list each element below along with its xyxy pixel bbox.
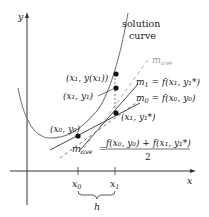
curve-label-line2: curve	[129, 30, 156, 41]
step-brace: h	[78, 191, 115, 212]
tick-label-x0: x0	[72, 178, 82, 191]
label-x1-y1star: (x₁, y₁*)	[121, 112, 156, 122]
formula-numerator: f(x₀, y₀) + f(x₁, y₁*)	[105, 138, 191, 148]
euler-diagram: y x x0 x1 h solution curve (x₁, y(x₁)) (…	[0, 0, 209, 217]
point-x0-y0	[75, 133, 80, 138]
formula-denominator: 2	[145, 152, 151, 162]
point-x1-yx1	[113, 71, 118, 76]
tick-label-x1: x1	[110, 178, 120, 191]
curve-label-line1: solution	[122, 18, 160, 29]
label-x1-yx1: (x₁, y(x₁))	[66, 73, 109, 83]
m-ave-formula: mave = f(x₀, y₀) + f(x₁, y₁*) 2	[72, 138, 191, 162]
label-m0: m0 = f(x₀, y₀)	[136, 93, 196, 105]
formula-lhs: mave	[72, 143, 93, 156]
label-m1: m1 = f(x₁, y₁*)	[136, 77, 200, 89]
axes: y x	[10, 11, 196, 205]
x-axis-arrow-icon	[190, 169, 196, 173]
x-axis-label: x	[187, 175, 193, 186]
y-axis-arrow-icon	[25, 12, 29, 18]
step-label-h: h	[94, 201, 100, 212]
point-x1-y1	[113, 85, 118, 90]
y-axis-label: y	[17, 11, 24, 22]
brace-icon	[78, 191, 115, 199]
label-m-ave: mave	[152, 54, 173, 67]
point-x1-y1star	[113, 110, 118, 115]
label-x0-y0: (x₀, y₀)	[50, 124, 81, 134]
label-x1-y1: (x₁, y₁)	[63, 91, 94, 101]
